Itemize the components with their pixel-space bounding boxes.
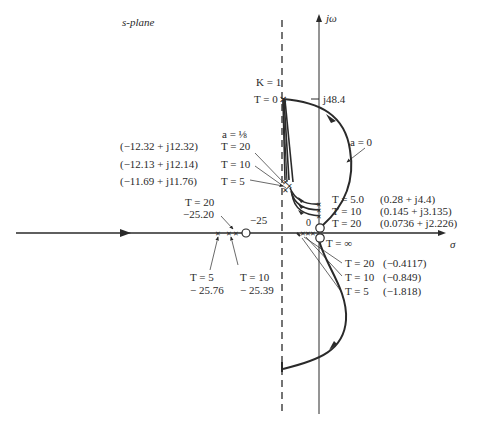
pole-mark: ✕	[233, 230, 239, 238]
ro-value-0: (−0.4117)	[383, 257, 426, 269]
ur-t-1: T = 10	[332, 205, 361, 217]
ur-value-0: (0.28 + j4.4)	[380, 193, 435, 205]
ul-t-1: T = 10	[221, 158, 250, 170]
origin-label: 0	[306, 217, 311, 229]
ur-value-2: (0.0736 + j2.226)	[380, 217, 457, 229]
pole-mark: ✕	[310, 230, 316, 238]
imaginary-axis-arrow-icon	[316, 14, 322, 22]
a-eighth-label: a = ⅛	[222, 128, 247, 140]
rf-value-1: − 25.76	[190, 284, 224, 296]
leader-line	[210, 237, 218, 270]
leader-line	[231, 237, 238, 265]
rf-t-0: T = 20	[185, 196, 214, 208]
ur-value-1: (0.145 + j3.135)	[380, 205, 452, 217]
ro-value-1: (−0.849)	[383, 271, 421, 283]
plane-title: s-plane	[122, 16, 154, 28]
ro-t-2: T = 5	[345, 285, 369, 297]
leader-line	[250, 180, 283, 186]
pole-mark: ✕	[226, 230, 232, 238]
origin-zero-icon	[316, 224, 324, 232]
ro-t-1: T = 10	[345, 271, 374, 283]
zero-25-icon	[242, 229, 250, 237]
leader-line	[221, 216, 233, 229]
t-inf-label: T = ∞	[326, 237, 352, 249]
t0-label: T = 0	[254, 93, 278, 105]
real-axis-arrow-icon	[438, 230, 446, 236]
ul-value-2: (−11.69 + j11.76)	[120, 175, 197, 187]
rf-value-2: − 25.39	[240, 284, 274, 296]
ur-t-2: T = 20	[332, 217, 361, 229]
ul-value-0: (−12.32 + j12.32)	[120, 140, 198, 152]
a-zero-label: a = 0	[350, 136, 372, 148]
imag-tick-label: j48.4	[323, 93, 345, 105]
rf-t-2: T = 10	[240, 271, 269, 283]
ul-value-1: (−12.13 + j12.14)	[120, 158, 198, 170]
pole-mark: ✕	[215, 230, 221, 238]
zero-label: −25	[250, 214, 267, 226]
origin-zero-icon	[316, 234, 324, 242]
pole-mark: ✕	[316, 213, 322, 221]
t0-pole-mark: ✕	[279, 94, 287, 105]
rf-value-0: −25.20	[183, 208, 214, 220]
ul-t-0: T = 20	[221, 140, 250, 152]
k-label: K = 1	[256, 76, 281, 88]
ro-t-0: T = 20	[345, 257, 374, 269]
imag-axis-label: jω	[326, 12, 337, 24]
real-axis-direction-arrow-icon	[120, 229, 131, 237]
rf-t-1: T = 5	[190, 271, 214, 283]
ul-t-2: T = 5	[221, 175, 245, 187]
ro-value-2: (−1.818)	[383, 285, 421, 297]
real-axis-label: σ	[450, 238, 455, 250]
leader-line	[255, 153, 284, 183]
ur-t-0: T = 5.0	[332, 193, 364, 205]
